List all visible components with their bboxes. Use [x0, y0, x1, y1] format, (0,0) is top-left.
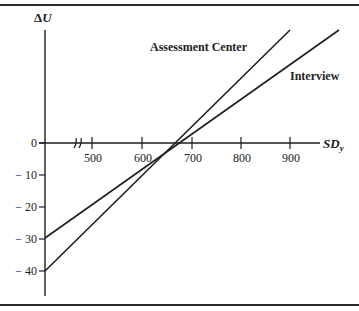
x-tick-label: 800 — [233, 151, 251, 165]
x-tick-label: 900 — [282, 151, 300, 165]
series-line-interview — [45, 30, 339, 238]
series-label-interview: Interview — [290, 69, 340, 83]
delta-symbol: Δ — [34, 10, 42, 25]
chart: 0 − 10 − 20 − 30 − 40 500 600 700 800 90… — [0, 0, 359, 311]
y-axis-title-main: U — [42, 10, 52, 25]
y-tick-label: − 40 — [15, 264, 37, 278]
x-tick-label: 500 — [84, 151, 102, 165]
y-tick-label: − 30 — [15, 232, 37, 246]
series-label-assessment-center: Assessment Center — [150, 40, 248, 54]
y-tick-label: − 20 — [15, 200, 37, 214]
y-axis-title: ΔU — [34, 10, 52, 25]
y-ticks — [39, 143, 45, 271]
x-tick-label: 700 — [184, 151, 202, 165]
x-axis-title-sub: y — [339, 143, 345, 153]
y-tick-label: − 10 — [15, 168, 37, 182]
x-axis-title-main: SD — [323, 136, 340, 151]
x-axis-title: SDy — [323, 136, 345, 153]
x-tick-label: 600 — [134, 151, 152, 165]
y-tick-label: 0 — [31, 136, 37, 150]
